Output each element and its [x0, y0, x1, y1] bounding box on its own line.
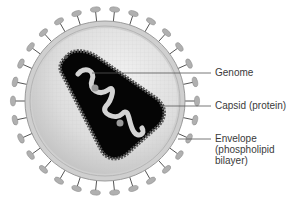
spike-head	[128, 9, 139, 17]
spike-head	[17, 58, 26, 69]
spike-head	[145, 176, 156, 186]
spike-head	[26, 150, 36, 161]
spike-head	[191, 115, 198, 126]
spike-head	[185, 58, 194, 69]
spike-head	[90, 189, 100, 195]
spike-head	[174, 150, 184, 161]
spike-head	[11, 76, 18, 87]
spike-head	[53, 176, 64, 186]
envelope-label: Envelope (phospholipid bilayer)	[215, 133, 275, 166]
spike-head	[109, 6, 119, 12]
spike-head	[90, 6, 100, 12]
genome-protein-dot	[117, 120, 124, 127]
spike-head	[71, 184, 82, 192]
spike-head	[26, 41, 36, 52]
spike-head	[109, 189, 119, 195]
spike-head	[191, 76, 198, 87]
spike-head	[194, 96, 199, 106]
spike-head	[71, 9, 82, 17]
spike-head	[128, 184, 139, 192]
spike-head	[10, 96, 15, 106]
spike-head	[53, 17, 64, 27]
spike-head	[174, 41, 184, 52]
spike-head	[17, 133, 26, 144]
spike-head	[185, 133, 194, 144]
genome-label: Genome	[215, 67, 253, 78]
genome-protein-dot	[92, 85, 99, 92]
capsid-label: Capsid (protein)	[215, 100, 286, 111]
spike-head	[11, 115, 18, 126]
spike-head	[145, 17, 156, 27]
